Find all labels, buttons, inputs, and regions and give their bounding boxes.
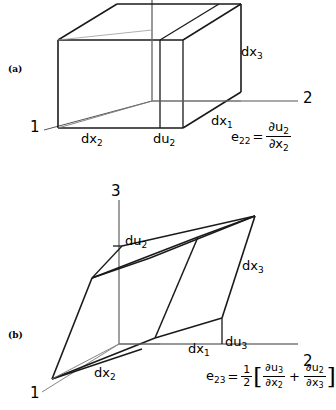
panel-b-equation-factor: 1 2 [241,364,252,389]
panel-a-label-dx3-base: dx [241,44,257,59]
panel-a-equation-lhs-sub: 22 [239,135,250,145]
panel-b-label-dx2: dx2 [94,365,116,382]
panel-a-equation-lhs-base: e [231,129,239,144]
panel-a-drawing [44,0,298,130]
panel-a-equation-denominator: ∂x2 [267,137,291,153]
panel-a-label-dx2: dx2 [81,131,103,148]
panel-b-label-du2-base: du [125,233,142,248]
panel-b-axis-3-label: 3 [111,182,121,200]
panel-a-equation-fraction: ∂u2 ∂x2 [266,120,291,154]
panel-b-tag: (b) [8,330,23,340]
panel-b-equation-lhs-sub: 23 [214,375,225,385]
panel-b-label-dx3: dx3 [242,258,264,275]
panel-a-tag: (a) [8,64,22,74]
panel-b-equation-operator: + [289,369,300,384]
panel-b-edge-front-left-slant [52,278,92,379]
panel-b-equation-term1-numerator-base: ∂u [265,361,278,374]
panel-b-equation-lhs: e23 [206,368,225,385]
panel-a-label-dx1-base: dx [211,113,227,128]
panel-b-equation-term1-numerator: ∂u3 [263,362,285,377]
panel-a-label-dx2-base: dx [81,131,97,146]
panel-a-edge-receding-top-dx2 [160,4,219,40]
panel-a-label-dx1: dx1 [211,113,233,130]
panel-a-axis-2-label: 2 [303,89,313,107]
panel-b-equation-bracket-open: [ [253,367,262,387]
panel-a-label-dx3-sub: 3 [257,51,263,61]
panel-b-equation-factor-den: 2 [241,377,252,389]
panel-a-axis-1-label: 1 [30,118,40,136]
panel-b-label-du3-sub: 3 [242,341,248,351]
panel-b-equation-term2: ∂u2 ∂x3 [304,362,326,391]
panel-a-label-dx3: dx3 [241,44,263,61]
panel-a-label-dx2-sub: 2 [97,138,103,148]
panel-b-axis-1-label: 1 [30,384,40,402]
panel-b-label-du3-base: du [225,334,242,349]
panel-a-label-du2-base: du [153,131,170,146]
panel-a-equation-numerator-base: ∂u [268,119,283,134]
panel-b-label-dx2-sub: 2 [110,372,116,382]
panel-a-edge-receding-top-right [183,4,241,40]
panel-b-label-du2: du2 [125,233,147,250]
panel-b-equation-term1-denominator-sub: 2 [278,381,283,390]
panel-b-equation-term1-denominator: ∂x2 [264,377,285,391]
panel-b-equation-bracket-close: ] [327,367,336,387]
panel-a-equation-numerator: ∂u2 [266,120,291,137]
panel-b-label-dx2-base: dx [94,365,110,380]
panel-a-equation-denominator-sub: 2 [283,143,289,153]
panel-a-equation-denominator-base: ∂x [269,136,283,151]
panel-b-equation-term1-numerator-sub: 3 [278,366,283,375]
panel-b-equation-term2-denominator-sub: 3 [318,381,323,390]
panel-a-equation-equals: = [252,129,263,144]
panel-b-edge-bottom-right-receding [155,318,222,338]
panel-a-equation: e22 = ∂u2 ∂x2 [231,120,292,154]
panel-a-label-du2-sub: 2 [170,138,176,148]
panel-b-equation-term2-denominator-base: ∂x [306,376,318,389]
panel-b-equation-term1-denominator-base: ∂x [266,376,278,389]
panel-b-equation-lhs-base: e [206,368,214,383]
panel-b-equation-equals: = [227,369,238,384]
panel-b-label-du2-sub: 2 [142,240,148,250]
panel-a-equation-numerator-sub: 2 [283,126,289,136]
panel-b-equation-term2-denominator: ∂x3 [304,377,325,391]
panel-a-equation-lhs: e22 [231,129,250,146]
panel-b-label-dx1: dx1 [188,341,210,358]
panel-b-label-du3: du3 [225,334,247,351]
panel-b-label-dx1-sub: 1 [204,348,210,358]
panel-b-equation-term2-numerator-base: ∂u [306,361,319,374]
panel-b-label-dx3-sub: 3 [258,265,264,275]
panel-b-equation: e23 = 1 2 [ ∂u3 ∂x2 + ∂u2 ∂x3 ] [206,362,336,391]
panel-b-equation-term2-numerator-sub: 2 [319,366,324,375]
panel-b-equation-term2-numerator: ∂u2 [304,362,326,377]
panel-b-edge-front-mid-slant [155,237,198,338]
panel-a-edge-interior-receding-bottom-left [58,101,152,128]
panel-a-label-du2: du2 [153,131,175,148]
panel-b-label-dx1-base: dx [188,341,204,356]
panel-b-equation-term1: ∂u3 ∂x2 [263,362,285,391]
panel-b-label-dx3-base: dx [242,258,258,273]
